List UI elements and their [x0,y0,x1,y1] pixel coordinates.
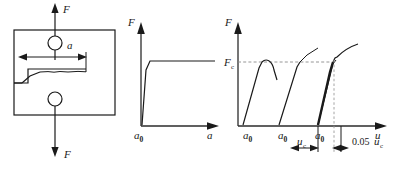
uc-label-sub: c [303,142,306,150]
middle-chart-x-label: a [207,129,213,141]
force-label-top: F [62,3,70,15]
right-chart-a0-sub-3: 0 [321,135,325,144]
fc-label-sub: c [231,63,234,71]
right-chart-y-label: F [224,16,232,28]
figure-root: F F a F a 0 a F F c a 0 a 0 a 0 u u c 0.… [0,0,399,175]
middle-chart-y-label: F [127,16,135,28]
crack-length-label: a [67,39,73,51]
offset-label-number: 0.05 [352,136,370,147]
offset-label-sub: c [380,142,383,150]
right-chart-a0-sub-2: 0 [284,135,288,144]
force-label-bottom: F [63,148,71,160]
right-chart-a0-sub-1: 0 [249,135,253,144]
fc-label: F [223,56,231,68]
middle-chart-origin-sub: 0 [140,135,144,144]
label-layer: F F a F a 0 a F F c a 0 a 0 a 0 u u c 0.… [0,0,399,175]
